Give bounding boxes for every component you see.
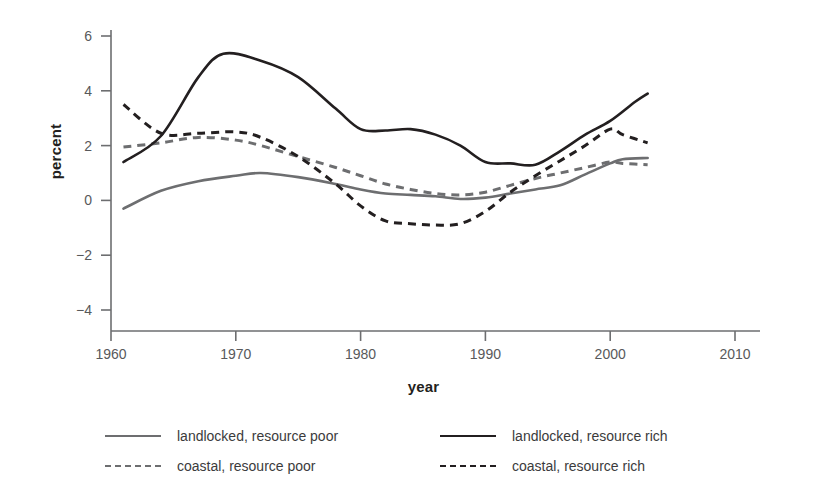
legend-dash-segment [105,465,111,467]
x-tick-label: 1960 [81,347,141,361]
chart-legend: landlocked, resource poorcoastal, resour… [105,425,765,485]
legend-dash-segment [155,465,161,467]
x-tick-label: 1970 [206,347,266,361]
data-series-layer [123,53,647,225]
legend-dash-segment [480,465,486,467]
legend-dash-segment [490,465,496,467]
x-tick-label: 2010 [705,347,765,361]
legend-item[interactable]: landlocked, resource rich [440,425,668,447]
y-tick-label: 6 [58,29,92,43]
legend-dash-segment [125,465,131,467]
legend-label: coastal, resource rich [512,458,645,474]
legend-dash-segment [135,465,141,467]
legend-dash-segment [115,465,121,467]
y-tick-label: −2 [58,248,92,262]
legend-label: coastal, resource poor [177,458,316,474]
x-axis-title: year [112,378,735,395]
legend-item[interactable]: coastal, resource rich [440,455,645,477]
chart-figure: percent year 6420−2−4 196019701980199020… [0,0,823,501]
legend-dash-segment [460,465,466,467]
legend-item[interactable]: landlocked, resource poor [105,425,338,447]
legend-label: landlocked, resource poor [177,428,338,444]
series-line [123,53,647,165]
legend-dash-segment [470,465,476,467]
legend-dash-segment [440,465,446,467]
x-axis-ticks [111,331,735,341]
solid-line-icon [440,430,498,442]
y-tick-label: 2 [58,139,92,153]
legend-solid-segment [440,435,496,437]
x-tick-label: 1990 [455,347,515,361]
x-tick-label: 2000 [580,347,640,361]
solid-line-icon [105,430,163,442]
x-tick-label: 1980 [331,347,391,361]
y-tick-label: −4 [58,303,92,317]
legend-solid-segment [105,435,161,437]
legend-dash-segment [145,465,151,467]
legend-dash-segment [450,465,456,467]
y-tick-label: 4 [58,84,92,98]
series-line [123,105,647,226]
y-axis-ticks [101,36,111,310]
legend-item[interactable]: coastal, resource poor [105,455,316,477]
dashed-line-icon [440,460,498,472]
y-tick-label: 0 [58,193,92,207]
legend-label: landlocked, resource rich [512,428,668,444]
dashed-line-icon [105,460,163,472]
